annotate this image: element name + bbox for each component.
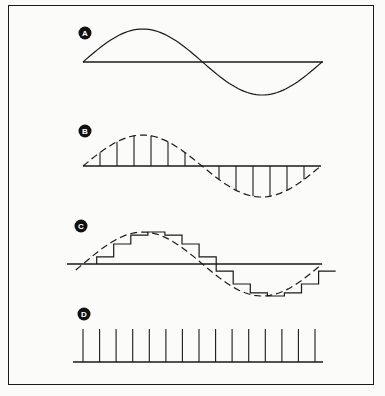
panel-a: A — [79, 27, 324, 96]
pulse-train-d — [83, 329, 315, 362]
label-b: B — [82, 127, 88, 136]
label-c: C — [78, 222, 84, 231]
panel-c: C — [67, 220, 336, 297]
label-a: A — [82, 29, 88, 38]
sampling-diagram: A B C D — [0, 0, 385, 396]
label-d: D — [81, 310, 87, 319]
panel-d: D — [73, 308, 323, 363]
panel-b: B — [79, 125, 322, 198]
